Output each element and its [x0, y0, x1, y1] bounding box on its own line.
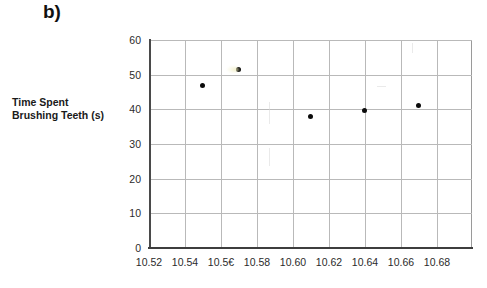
y-tick-label: 0 [107, 243, 141, 254]
panel-label: b) [43, 2, 61, 21]
data-point [416, 103, 421, 108]
y-tick-label: 50 [107, 70, 141, 81]
y-tick-label: 40 [107, 104, 141, 115]
gridline-horizontal [149, 179, 472, 180]
scan-speckle [269, 148, 270, 166]
data-point [200, 83, 205, 88]
scan-speckle [269, 102, 270, 124]
y-axis-line [149, 39, 151, 249]
gridline-horizontal [149, 40, 472, 41]
data-point [308, 114, 313, 119]
gridline-horizontal [149, 213, 472, 214]
data-point [362, 108, 367, 113]
x-axis-line [148, 247, 473, 249]
scan-speckle [377, 86, 386, 87]
y-tick-label: 20 [107, 174, 141, 185]
gridline-horizontal [149, 109, 472, 110]
gridline-horizontal [149, 144, 472, 145]
y-tick-label: 10 [107, 208, 141, 219]
x-tick-label: 10.68 [415, 257, 459, 268]
scan-speckle [412, 43, 413, 53]
gridline-horizontal [149, 75, 472, 76]
plot-area [149, 40, 472, 248]
y-tick-label: 60 [107, 35, 141, 46]
scan-smudge [226, 67, 239, 72]
scatter-chart-figure: b) Time Spent Brushing Teeth (s) [0, 0, 487, 288]
y-tick-label: 30 [107, 139, 141, 150]
